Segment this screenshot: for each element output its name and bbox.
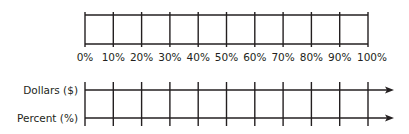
percent-tick-label: 80% (300, 51, 323, 63)
percent-tick-label: 30% (158, 51, 181, 63)
percent-tick-label: 40% (187, 51, 210, 63)
double-number-line: Dollars ($) Percent (%) (17, 82, 394, 126)
percent-tick-label: 70% (271, 51, 294, 63)
percent-tick-label: 90% (328, 51, 351, 63)
percent-bar-dividers (85, 12, 368, 47)
percent-bar: 0%10%20%30%40%50%60%70%80%90%100% (77, 12, 387, 63)
percent-tick-label: 50% (215, 51, 238, 63)
percent-tick-label: 100% (357, 51, 387, 63)
percent-row-label: Percent (%) (17, 112, 78, 124)
percent-tick-label: 20% (130, 51, 153, 63)
diagram-canvas: 0%10%20%30%40%50%60%70%80%90%100% Dollar… (0, 0, 409, 134)
percent-tick-label: 0% (77, 51, 94, 63)
number-line-ticks (85, 82, 368, 126)
dollars-row-label: Dollars ($) (23, 84, 78, 96)
percent-bar-tick-labels: 0%10%20%30%40%50%60%70%80%90%100% (77, 51, 387, 63)
percent-tick-label: 10% (102, 51, 125, 63)
percent-tick-label: 60% (243, 51, 266, 63)
